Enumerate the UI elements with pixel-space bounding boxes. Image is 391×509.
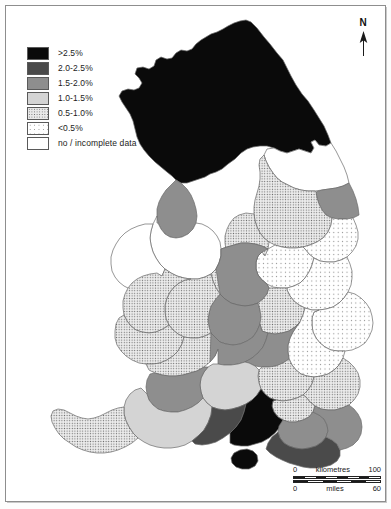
scale-miles-unit: miles <box>297 485 372 493</box>
legend-swatch-gt-2-5 <box>27 47 49 60</box>
map-figure: >2.5% 2.0-2.5% 1.5-2.0% 1.0-1.5% 0.5-1.0… <box>0 0 391 509</box>
legend-swatch-no-data <box>27 137 49 150</box>
region-lancashire <box>157 180 197 238</box>
scale-bar: 0 kilometres 100 0 miles 60 <box>293 466 381 492</box>
map-legend: >2.5% 2.0-2.5% 1.5-2.0% 1.0-1.5% 0.5-1.0… <box>27 46 162 151</box>
scale-line-km: 0 kilometres 100 <box>293 466 381 474</box>
legend-item: 2.0-2.5% <box>27 61 162 76</box>
legend-item: <0.5% <box>27 121 162 136</box>
legend-label: 2.0-2.5% <box>58 64 93 73</box>
legend-item: 0.5-1.0% <box>27 106 162 121</box>
legend-swatch-lt-0-5 <box>27 122 49 135</box>
legend-item: 1.0-1.5% <box>27 91 162 106</box>
legend-label: 0.5-1.0% <box>58 109 93 118</box>
legend-label: >2.5% <box>58 49 83 58</box>
legend-swatch-1-5-2-0 <box>27 77 49 90</box>
scale-miles-max: 60 <box>373 485 381 493</box>
legend-swatch-1-0-1-5 <box>27 92 49 105</box>
legend-swatch-2-0-2-5 <box>27 62 49 75</box>
north-arrow-icon <box>352 31 374 61</box>
legend-swatch-0-5-1-0 <box>27 107 49 120</box>
scale-bar-miles <box>293 480 381 483</box>
legend-item: no / incomplete data <box>27 136 162 151</box>
legend-label: no / incomplete data <box>58 139 137 148</box>
legend-label: 1.5-2.0% <box>58 79 93 88</box>
legend-item: >2.5% <box>27 46 162 61</box>
region-isle-of-wight <box>231 449 258 469</box>
legend-label: <0.5% <box>58 124 83 133</box>
north-arrow: N <box>352 18 374 61</box>
scale-km-unit: kilometres <box>297 466 368 474</box>
north-arrow-label: N <box>352 18 374 28</box>
scale-bar-graphic <box>293 476 381 483</box>
scale-km-max: 100 <box>368 466 381 474</box>
legend-item: 1.5-2.0% <box>27 76 162 91</box>
legend-label: 1.0-1.5% <box>58 94 93 103</box>
scale-line-miles: 0 miles 60 <box>293 485 381 493</box>
